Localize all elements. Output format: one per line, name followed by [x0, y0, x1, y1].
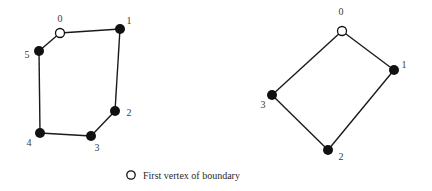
vertex-label: 5 [25, 49, 30, 60]
legend-text: First vertex of boundary [143, 170, 240, 181]
vertex-label: 4 [27, 137, 32, 148]
vertex-label: 1 [127, 15, 132, 26]
vertex-label: 3 [261, 99, 266, 110]
hollow-circle-legend-icon [127, 171, 135, 179]
polygon-diagram-canvas: 012345 0123 First vertex of boundary [0, 0, 432, 191]
vertex-filled-circle [323, 145, 333, 155]
hexagon-polygon: 012345 [25, 13, 132, 153]
vertex-filled-circle [115, 24, 125, 34]
polygon-edge [39, 51, 40, 133]
vertex-label: 2 [339, 151, 344, 162]
vertex-filled-circle [110, 106, 120, 116]
vertex-label: 0 [339, 6, 344, 17]
vertex-label: 2 [127, 107, 132, 118]
polygon-edge [328, 70, 394, 150]
vertex-filled-circle [86, 131, 96, 141]
vertex-filled-circle [267, 90, 277, 100]
vertex-filled-circle [35, 128, 45, 138]
polygon-edge [272, 31, 342, 95]
legend: First vertex of boundary [127, 170, 240, 181]
vertex-filled-circle [34, 46, 44, 56]
first-vertex-hollow-circle [56, 29, 65, 38]
quadrilateral-polygon: 0123 [261, 6, 407, 162]
polygon-edge [342, 31, 394, 70]
polygon-edge [60, 29, 120, 33]
vertex-filled-circle [389, 65, 399, 75]
polygon-edge [40, 133, 91, 136]
vertex-label: 3 [95, 142, 100, 153]
first-vertex-hollow-circle [338, 27, 347, 36]
polygon-edge [115, 29, 120, 111]
vertex-label: 0 [58, 13, 63, 24]
polygon-edge [272, 95, 328, 150]
polygon-edge [91, 111, 115, 136]
vertex-label: 1 [402, 59, 407, 70]
